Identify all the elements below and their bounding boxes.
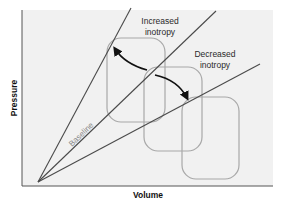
decreased-inotropy-label-line2: inotropy [200, 60, 231, 70]
increased-inotropy-label-line1: Increased [141, 16, 179, 26]
x-axis-label: Volume [133, 190, 163, 200]
increased-inotropy-label-line2: inotropy [145, 27, 176, 37]
pv-diagram: Increased inotropy Decreased inotropy Ba… [0, 0, 283, 208]
decreased-inotropy-label-line1: Decreased [194, 49, 235, 59]
y-axis-label: Pressure [9, 80, 19, 117]
